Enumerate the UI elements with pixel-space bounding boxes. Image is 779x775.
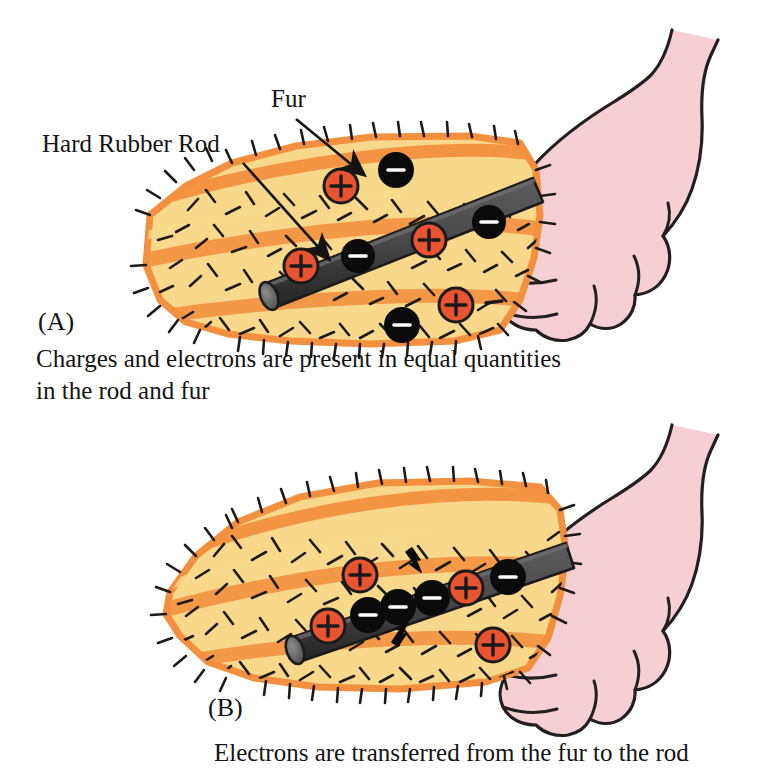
- charge-positive: [343, 558, 377, 592]
- fur-label: Fur: [271, 85, 306, 112]
- charge-negative: [415, 581, 449, 615]
- charge-positive: [449, 571, 483, 605]
- charge-negative: [473, 206, 505, 238]
- charge-negative: [491, 560, 525, 594]
- charge-positive: [324, 169, 358, 203]
- caption-a-line-2: in the rod and fur: [36, 377, 210, 404]
- charge-negative-bare: [486, 301, 502, 303]
- panel-label-a: (A): [38, 307, 74, 336]
- charge-negative: [379, 153, 413, 187]
- charge-positive: [284, 249, 318, 283]
- charge-negative: [351, 598, 385, 632]
- charge-negative: [342, 240, 374, 272]
- charge-positive: [311, 609, 345, 643]
- charge-positive: [476, 628, 510, 662]
- caption-a-line-1: Charges and electrons are present in equ…: [36, 345, 561, 372]
- charge-positive: [439, 288, 473, 322]
- rod-label: Hard Rubber Rod: [42, 130, 220, 157]
- electrostatic-charging-figure: Fur Hard Rubber Rod (A) Charges and elec…: [0, 0, 779, 775]
- panel-label-b: (B): [208, 693, 243, 722]
- charge-negative: [385, 308, 419, 342]
- charge-negative: [381, 590, 415, 624]
- caption-b-line-1: Electrons are transferred from the fur t…: [214, 739, 689, 766]
- charge-positive: [412, 223, 446, 257]
